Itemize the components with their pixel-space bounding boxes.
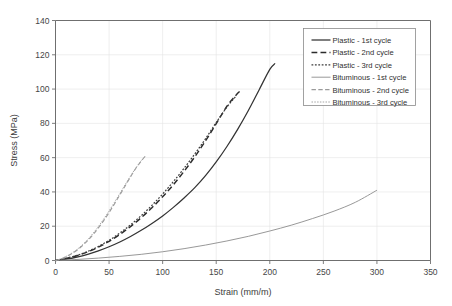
x-tick-label: 200 xyxy=(263,267,277,277)
y-tick-label: 0 xyxy=(45,256,50,266)
x-tick-label: 150 xyxy=(209,267,223,277)
x-tick-label: 100 xyxy=(156,267,170,277)
x-axis-title: Strain (mm/m) xyxy=(215,287,272,297)
chart-container: 050100150200250300350 020406080100120140… xyxy=(0,0,452,306)
x-tick-label: 50 xyxy=(104,267,114,277)
chart-legend: Plastic - 1st cyclePlastic - 2nd cyclePl… xyxy=(304,29,416,107)
x-tick-label: 250 xyxy=(316,267,330,277)
y-tick-label: 100 xyxy=(35,84,49,94)
legend-label: Plastic - 1st cycle xyxy=(333,36,392,45)
x-tick-label: 350 xyxy=(423,267,437,277)
y-tick-label: 120 xyxy=(35,50,49,60)
stress-strain-chart: 050100150200250300350 020406080100120140… xyxy=(0,0,452,306)
y-axis-title: Stress (MPa) xyxy=(9,114,19,167)
legend-label: Plastic - 2nd cycle xyxy=(333,48,394,57)
y-tick-label: 140 xyxy=(35,16,49,26)
legend-label: Bituminous - 2nd cycle xyxy=(333,86,409,95)
y-tick-label: 20 xyxy=(40,221,50,231)
legend-label: Bituminous - 1st cycle xyxy=(333,73,407,82)
x-tick-label: 300 xyxy=(370,267,384,277)
y-tick-label: 40 xyxy=(40,187,50,197)
legend-label: Plastic - 3rd cycle xyxy=(333,61,393,70)
y-tick-label: 60 xyxy=(40,153,50,163)
x-tick-label: 0 xyxy=(53,267,58,277)
legend-label: Bituminous - 3rd cycle xyxy=(333,98,408,107)
y-tick-label: 80 xyxy=(40,118,50,128)
